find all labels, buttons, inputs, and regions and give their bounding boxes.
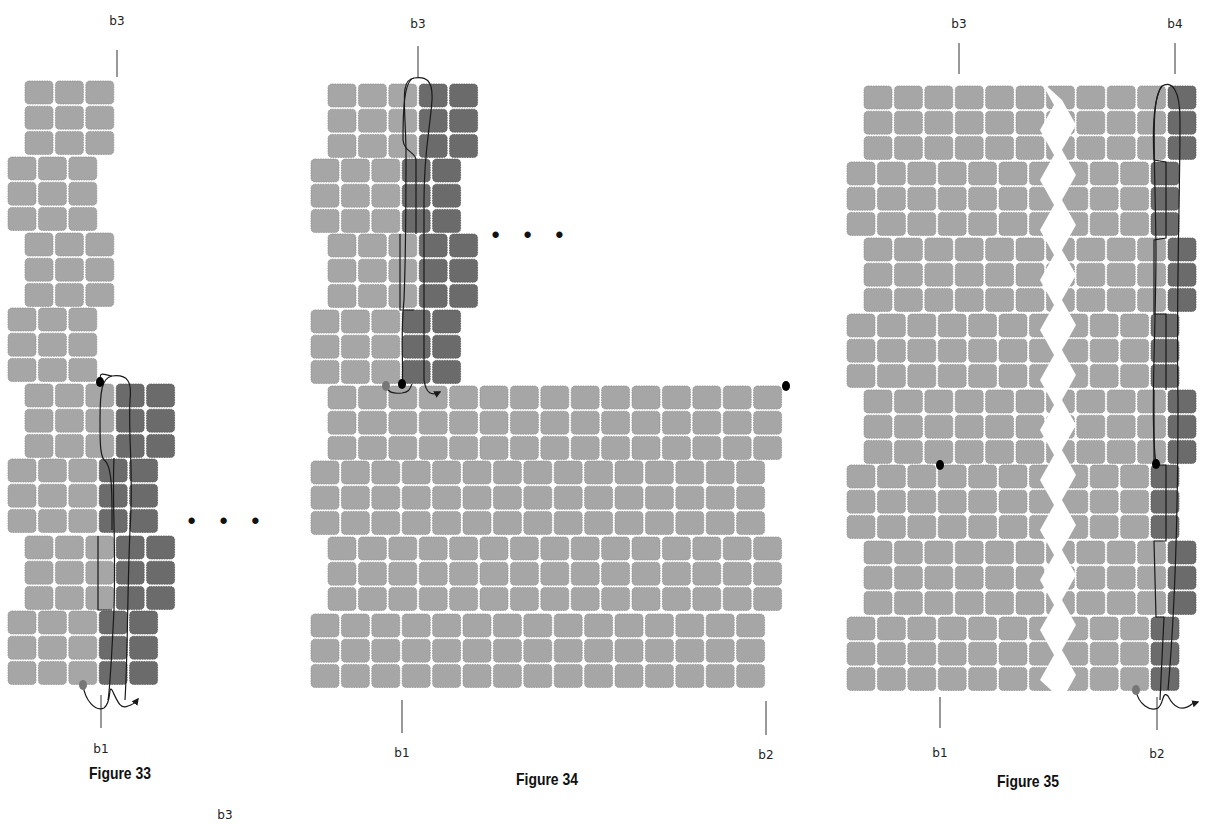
bead-light	[402, 461, 430, 484]
bead-light	[969, 667, 997, 690]
bead-light	[585, 461, 613, 484]
bead-dark	[1168, 263, 1196, 286]
bead-light	[433, 511, 461, 534]
bead-dark	[1168, 390, 1196, 413]
bead-light	[372, 486, 400, 509]
bead-light	[676, 639, 704, 662]
bead-light	[1077, 440, 1105, 463]
bead-light	[1138, 288, 1166, 311]
bead-dark	[147, 586, 175, 609]
bead-light	[328, 386, 356, 409]
bead-light	[311, 184, 339, 207]
bead-light	[662, 587, 690, 610]
bead-light	[986, 566, 1014, 589]
bead-light	[955, 390, 983, 413]
bead-light	[585, 511, 613, 534]
bead-light	[493, 614, 521, 637]
bead-light	[908, 162, 936, 185]
bead-dark	[130, 611, 158, 634]
bead-light	[402, 486, 430, 509]
bead-dark	[450, 109, 478, 132]
bead-light	[986, 86, 1014, 109]
bead-light	[389, 537, 417, 560]
bead-light	[25, 561, 53, 584]
bead-light	[86, 536, 114, 559]
bead-light	[706, 639, 734, 662]
bead-light	[632, 436, 660, 459]
bead-light	[358, 411, 386, 434]
bead-light	[38, 308, 66, 331]
bead-light	[38, 484, 66, 507]
bead-light	[1016, 238, 1044, 261]
bead-light	[938, 617, 966, 640]
bead-light	[999, 465, 1027, 488]
bead-light	[864, 86, 892, 109]
bead-light	[1016, 263, 1044, 286]
bead-light	[877, 364, 905, 387]
fig33-beadwork	[8, 50, 175, 728]
bead-light	[433, 664, 461, 687]
bead-light	[723, 562, 751, 585]
bead-dark	[433, 209, 461, 232]
bead-light	[55, 81, 83, 104]
bead-light	[493, 511, 521, 534]
bead-light	[358, 234, 386, 257]
bead-light	[1016, 541, 1044, 564]
bead-light	[877, 314, 905, 337]
bead-dark	[130, 661, 158, 684]
bead-light	[938, 187, 966, 210]
bead-light	[737, 664, 765, 687]
bead-light	[894, 440, 922, 463]
bead-light	[86, 258, 114, 281]
bead-light	[8, 509, 36, 532]
bead-light	[585, 486, 613, 509]
bead-light	[341, 486, 369, 509]
bead-light	[328, 234, 356, 257]
bead-light	[938, 162, 966, 185]
bead-light	[358, 259, 386, 282]
bead-light	[25, 434, 53, 457]
bead-light	[571, 436, 599, 459]
bead-dark	[147, 561, 175, 584]
bead-light	[419, 386, 447, 409]
bead-light	[754, 537, 782, 560]
bead-light	[894, 86, 922, 109]
bead-light	[1090, 515, 1118, 538]
bead-light	[615, 664, 643, 687]
bead-light	[419, 411, 447, 434]
bead-light	[328, 587, 356, 610]
bead-light	[389, 436, 417, 459]
bead-dark	[1168, 566, 1196, 589]
bead-light	[938, 339, 966, 362]
bead-dark	[1168, 415, 1196, 438]
bead-light	[1077, 136, 1105, 159]
bead-light	[877, 187, 905, 210]
bead-light	[341, 461, 369, 484]
bead-light	[662, 386, 690, 409]
fig34-beadwork	[311, 46, 790, 735]
bead-light	[38, 358, 66, 381]
bead-light	[1121, 617, 1149, 640]
marker-dot-icon	[936, 460, 944, 470]
bead-light	[510, 562, 538, 585]
bead-light	[986, 263, 1014, 286]
bead-light	[999, 667, 1027, 690]
bead-light	[847, 667, 875, 690]
bead-light	[1107, 111, 1135, 134]
bead-light	[847, 515, 875, 538]
bead-light	[723, 587, 751, 610]
bead-light	[69, 157, 97, 180]
bead-light	[969, 364, 997, 387]
bead-light	[676, 664, 704, 687]
bead-light	[372, 461, 400, 484]
bead-light	[632, 587, 660, 610]
bead-light	[1138, 86, 1166, 109]
bead-dark	[99, 661, 127, 684]
bead-light	[358, 436, 386, 459]
bead-light	[999, 314, 1027, 337]
bead-light	[69, 333, 97, 356]
bead-light	[706, 511, 734, 534]
bead-light	[463, 664, 491, 687]
bead-light	[1090, 617, 1118, 640]
thread-path	[1136, 690, 1198, 709]
